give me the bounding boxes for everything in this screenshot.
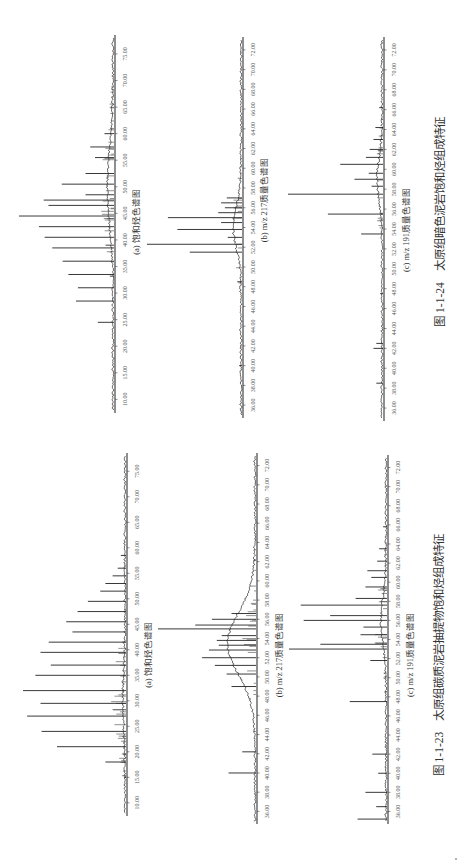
axis-tick-label: 42.00 (264, 747, 270, 761)
axis-tick-label: 10.00 (122, 393, 128, 407)
axis-tick-label: 44.00 (264, 728, 270, 742)
page-speck (455, 858, 457, 860)
figure-1-1-24-svg: 10.0015.0020.0025.0030.0035.0040.0045.00… (0, 0, 461, 433)
axis-tick-label: 58.00 (391, 182, 397, 196)
axis-tick-label: 50.00 (395, 671, 401, 685)
axis-tick-label: 56.00 (264, 613, 270, 627)
axis-tick-label: 38.00 (395, 786, 401, 800)
axis-tick-label: 52.00 (395, 652, 401, 666)
figure-caption: 图 1-1-24 太原组暗色泥岩饱和烃组成特征 (433, 116, 446, 327)
axis-tick-label: 40.00 (134, 643, 140, 657)
axis-tick-label: 36.00 (391, 401, 397, 415)
axis-tick-label: 35.00 (134, 669, 140, 683)
axis-tick-label: 48.00 (391, 282, 397, 296)
axis-tick-label: 66.00 (264, 516, 270, 530)
axis-tick-label: 25.00 (122, 313, 128, 327)
axis-tick-label: 64.00 (391, 123, 397, 137)
axis-tick-label: 40.00 (250, 359, 256, 373)
axis-tick-label: 46.00 (250, 300, 256, 314)
axis-tick-label: 64.00 (250, 122, 256, 136)
axis-tick-label: 48.00 (395, 690, 401, 704)
axis-tick-label: 46.00 (391, 302, 397, 316)
axis-tick-label: 58.00 (250, 181, 256, 195)
axis-tick-label: 40.00 (264, 766, 270, 780)
axis-tick-label: 66.00 (250, 102, 256, 116)
panel-caption: (a) 饱和烃色谱图 (143, 622, 153, 688)
axis-tick-label: 68.00 (391, 83, 397, 97)
axis-tick-label: 46.00 (264, 709, 270, 723)
axis-tick-label: 64.00 (395, 537, 401, 551)
axis-tick-label: 40.00 (391, 362, 397, 376)
axis-tick-label: 10.00 (134, 796, 140, 810)
axis-tick-label: 50.00 (134, 592, 140, 606)
axis-tick-label: 50.00 (264, 670, 270, 684)
chromatogram-panel-2: 36.0038.0040.0042.0044.0046.0048.0050.00… (147, 37, 269, 418)
axis-tick-label: 72.00 (391, 43, 397, 57)
axis-tick-label: 56.00 (395, 614, 401, 628)
panel-caption: (c) m/z 191质量色谱图 (401, 188, 411, 272)
axis-tick-label: 30.00 (122, 286, 128, 300)
axis-tick-label: 70.00 (122, 74, 128, 88)
axis-tick-label: 60.00 (391, 163, 397, 177)
axis-tick-label: 65.00 (122, 100, 128, 114)
axis-tick-label: 58.00 (264, 593, 270, 607)
axis-tick-label: 62.00 (395, 556, 401, 570)
axis-tick-label: 56.00 (250, 201, 256, 215)
axis-tick-label: 66.00 (391, 103, 397, 117)
axis-tick-label: 70.00 (391, 63, 397, 77)
axis-tick-label: 70.00 (134, 490, 140, 504)
axis-tick-label: 36.00 (250, 398, 256, 412)
axis-tick-label: 58.00 (395, 595, 401, 609)
chromatogram-panel-3: 36.0038.0040.0042.0044.0046.0048.0050.00… (288, 37, 411, 421)
axis-tick-label: 70.00 (264, 478, 270, 492)
axis-tick-label: 36.00 (395, 805, 401, 819)
axis-tick-label: 15.00 (122, 366, 128, 380)
axis-tick-label: 56.00 (391, 202, 397, 216)
axis-tick-label: 62.00 (264, 555, 270, 569)
chromatogram-panel-1: 10.0015.0020.0025.0030.0035.0040.0045.00… (23, 453, 153, 816)
axis-tick-label: 45.00 (122, 207, 128, 221)
axis-tick-label: 72.00 (250, 43, 256, 57)
chromatogram-panel-2: 36.0038.0040.0042.0044.0046.0048.0050.00… (158, 453, 284, 824)
axis-tick-label: 75.00 (122, 47, 128, 61)
axis-tick-label: 70.00 (395, 480, 401, 494)
axis-tick-label: 68.00 (395, 499, 401, 513)
axis-tick-label: 60.00 (250, 162, 256, 176)
axis-tick-label: 55.00 (134, 567, 140, 581)
axis-tick-label: 36.00 (264, 805, 270, 819)
axis-tick-label: 48.00 (250, 280, 256, 294)
axis-tick-label: 50.00 (391, 262, 397, 276)
axis-tick-label: 52.00 (250, 240, 256, 254)
axis-tick-label: 40.00 (395, 766, 401, 780)
axis-tick-label: 45.00 (134, 618, 140, 632)
axis-tick-label: 15.00 (134, 771, 140, 785)
axis-tick-label: 66.00 (395, 518, 401, 532)
figure-1-1-23: 10.0015.0020.0025.0030.0035.0040.0045.00… (0, 433, 461, 866)
axis-tick-label: 60.00 (264, 574, 270, 588)
axis-tick-label: 54.00 (391, 222, 397, 236)
figure-1-1-23-svg: 10.0015.0020.0025.0030.0035.0040.0045.00… (0, 433, 461, 866)
axis-tick-label: 54.00 (264, 632, 270, 646)
axis-tick-label: 25.00 (134, 720, 140, 734)
chromatogram-panel-3: 36.0038.0040.0042.0044.0046.0048.0050.00… (289, 455, 415, 824)
axis-tick-label: 20.00 (134, 745, 140, 759)
axis-tick-label: 62.00 (391, 143, 397, 157)
axis-tick-label: 30.00 (134, 694, 140, 708)
axis-tick-label: 42.00 (250, 339, 256, 353)
axis-tick-label: 48.00 (264, 689, 270, 703)
axis-tick-label: 60.00 (395, 575, 401, 589)
axis-tick-label: 62.00 (250, 142, 256, 156)
axis-tick-label: 68.00 (250, 83, 256, 97)
axis-tick-label: 20.00 (122, 339, 128, 353)
axis-tick-label: 50.00 (250, 260, 256, 274)
axis-tick-label: 54.00 (250, 221, 256, 235)
axis-tick-label: 55.00 (122, 153, 128, 167)
axis-tick-label: 60.00 (134, 541, 140, 555)
figure-1-1-24: 10.0015.0020.0025.0030.0035.0040.0045.00… (0, 0, 461, 433)
axis-tick-label: 52.00 (264, 651, 270, 665)
axis-tick-label: 46.00 (395, 709, 401, 723)
axis-tick-label: 42.00 (395, 747, 401, 761)
axis-tick-label: 65.00 (134, 516, 140, 530)
axis-tick-label: 44.00 (250, 319, 256, 333)
axis-tick-label: 72.00 (264, 459, 270, 473)
